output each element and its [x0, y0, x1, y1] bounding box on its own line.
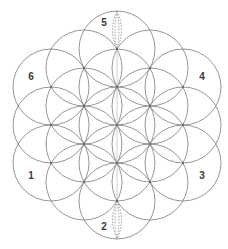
- node-dot: [116, 124, 118, 126]
- node-dot: [83, 143, 85, 145]
- dashed-lens-top: [113, 11, 122, 49]
- label-1: 1: [28, 170, 34, 181]
- node-dot: [182, 162, 184, 164]
- node-dot: [50, 86, 52, 88]
- dashed-lens-bottom: [113, 201, 122, 239]
- node-dot: [182, 86, 184, 88]
- node-dot: [149, 181, 151, 183]
- label-3: 3: [199, 170, 205, 181]
- label-5: 5: [101, 17, 107, 28]
- flower-of-life-diagram: 5 6 4 1 3 2: [0, 0, 228, 249]
- node-dot: [149, 143, 151, 145]
- node-dot: [182, 124, 184, 126]
- label-4: 4: [199, 71, 205, 82]
- node-dot: [116, 86, 118, 88]
- node-dot: [50, 124, 52, 126]
- node-dot: [116, 48, 118, 50]
- node-dot: [149, 67, 151, 69]
- node-dot: [83, 181, 85, 183]
- node-dot: [116, 200, 118, 202]
- node-dot: [83, 67, 85, 69]
- node-dot: [116, 162, 118, 164]
- node-dot: [149, 105, 151, 107]
- label-6: 6: [28, 71, 34, 82]
- label-2: 2: [101, 221, 107, 232]
- node-dot: [50, 162, 52, 164]
- node-dot: [83, 105, 85, 107]
